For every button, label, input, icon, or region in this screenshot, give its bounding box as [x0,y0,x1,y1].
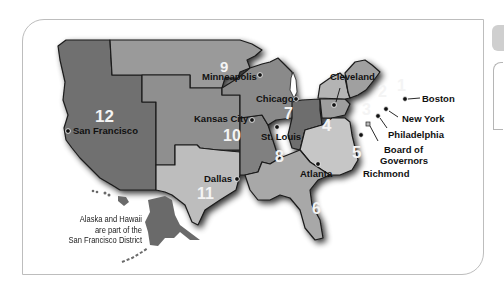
chicago-marker [294,97,299,102]
district-12-number: 12 [95,107,114,126]
minneapolis-marker [258,73,263,78]
note-line-3: San Francisco District [63,235,142,246]
label-cleveland: Cleveland [330,71,375,82]
hawaii-shape [92,190,129,206]
dallas-marker [235,177,240,182]
aleutian-islands [122,248,148,262]
note-line-1: Alaska and Hawaii [63,214,142,225]
district-8-number: 8 [275,148,284,165]
district-2-number: 2 [378,83,387,100]
cleveland-marker [332,103,337,108]
note-line-2: are part of the [63,225,142,236]
label-dallas: Dallas [204,173,232,184]
label-chicago: Chicago [256,93,294,104]
district-5-number: 5 [352,143,361,162]
label-boston: Boston [422,93,455,104]
district-3-number: 3 [362,101,371,118]
richmond-marker [359,133,364,138]
district-10-number: 10 [223,127,241,144]
label-philadelphia: Philadelphia [388,129,445,140]
district-11-number: 11 [197,185,214,202]
st-louis-marker [275,125,280,130]
label-board-of-governors-1: Board of [384,144,424,155]
district-1-number: 1 [397,77,406,94]
philadelphia-leader [380,118,387,128]
label-minneapolis: Minneapolis [202,71,257,82]
philadelphia-marker [376,114,381,119]
boston-marker [403,97,408,102]
label-board-of-governors-2: Governors [380,155,428,166]
label-atlanta: Atlanta [300,168,333,179]
boston-leader [408,98,420,99]
district-7-number: 7 [284,105,293,122]
district-6-number: 6 [312,200,321,217]
label-kansas-city: Kansas City [194,113,249,124]
alaska-hawaii-note: Alaska and Hawaii are part of the San Fr… [63,214,142,246]
new-york-leader [389,111,398,117]
label-richmond: Richmond [363,168,410,179]
district-4-number: 4 [322,116,332,135]
label-st-louis: St. Louis [261,131,301,142]
label-san-francisco: San Francisco [73,125,138,136]
board-of-governors-marker [366,122,370,126]
new-york-marker [384,107,389,112]
atlanta-marker [316,162,321,167]
label-new-york: New York [402,113,445,124]
san-francisco-marker [66,129,71,134]
board-leader [370,126,378,141]
kansas-city-marker [250,118,255,123]
